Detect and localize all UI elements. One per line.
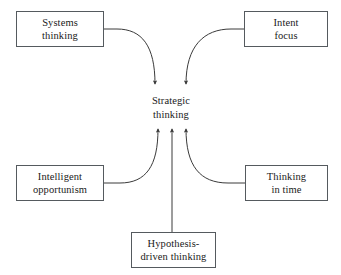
diagram-canvas: Systems thinking Intent focus Intelligen… <box>0 0 341 275</box>
node-systems-thinking[interactable]: Systems thinking <box>16 11 104 47</box>
node-thinking-in-time[interactable]: Thinking in time <box>245 165 328 201</box>
connector-intent-focus-to-center <box>186 29 244 84</box>
node-intent-focus[interactable]: Intent focus <box>244 11 328 47</box>
node-label: Intent focus <box>273 16 298 43</box>
node-label: Hypothesis- driven thinking <box>141 237 207 264</box>
node-label: Systems thinking <box>42 16 78 43</box>
center-node-strategic-thinking: Strategic thinking <box>138 94 204 121</box>
connector-intelligent-opportunism-to-center <box>104 129 158 183</box>
connector-thinking-in-time-to-center <box>186 129 245 183</box>
node-label: Thinking in time <box>267 170 306 197</box>
node-label: Intelligent opportunism <box>33 170 87 197</box>
node-hypothesis-driven-thinking[interactable]: Hypothesis- driven thinking <box>131 232 216 268</box>
connector-systems-thinking-to-center <box>104 29 155 84</box>
node-intelligent-opportunism[interactable]: Intelligent opportunism <box>16 165 104 201</box>
